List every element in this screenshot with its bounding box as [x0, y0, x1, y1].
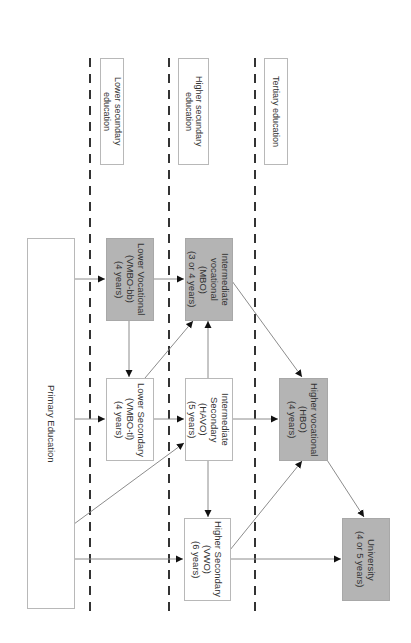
- edge-higher-vocational-university: [327, 460, 364, 517]
- node-lower-vocational: Lower Vocational (VMBO-bb) (4 years): [106, 238, 154, 321]
- node-university: University (4 or 5 years): [342, 518, 390, 601]
- node-label: Primary Education: [46, 385, 57, 463]
- node-higher-vocational: Higher vocational (HBO) (4 years): [279, 378, 328, 461]
- stage-label-text: Higher secundary education: [183, 76, 204, 147]
- node-label: University (4 or 5 years): [355, 531, 377, 588]
- node-primary-education: Primary Education: [27, 238, 75, 609]
- node-lower-secondary: Lower Secondary (VMBO-tl) (4 years): [106, 378, 154, 461]
- education-diagram: Lower secundary education Higher secunda…: [0, 0, 411, 643]
- node-intermediate-secondary: Intermediate Secondary (HAVO) (5 years): [185, 378, 233, 461]
- stage-label-higher-secondary: Higher secundary education: [178, 58, 209, 165]
- edge-intermediate-vocational-higher-vocational: [232, 281, 302, 377]
- stage-label-text: Lower secundary education: [102, 77, 123, 146]
- node-label: Intermediate Secondary (HAVO) (5 years): [187, 393, 231, 446]
- stage-label-tertiary: Tertiary education: [264, 58, 288, 165]
- node-label: Intermediate vocational (MBO) (3 or 4 ye…: [187, 251, 231, 308]
- node-label: Higher Secondary (VWO) (6 years): [191, 521, 224, 597]
- node-intermediate-vocational: Intermediate vocational (MBO) (3 or 4 ye…: [185, 238, 233, 321]
- stage-label-text: Tertiary education: [271, 76, 282, 147]
- node-label: Higher vocational (HBO) (4 years): [287, 383, 320, 456]
- edge-higher-secondary-higher-vocational: [230, 461, 302, 550]
- node-label: Lower Secondary (VMBO-tl) (4 years): [114, 383, 147, 457]
- node-label: Lower Vocational (VMBO-bb) (4 years): [114, 243, 147, 315]
- stage-label-lower-secondary: Lower secundary education: [100, 58, 124, 165]
- node-higher-secondary: Higher Secondary (VWO) (6 years): [184, 518, 231, 601]
